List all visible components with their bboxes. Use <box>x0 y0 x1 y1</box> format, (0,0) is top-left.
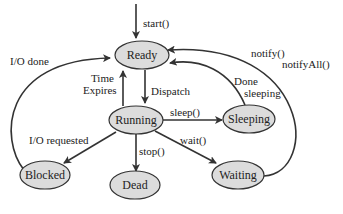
label-done: Done <box>234 75 258 87</box>
label-start: start() <box>143 17 170 30</box>
node-blocked: Blocked <box>20 161 70 189</box>
node-ready: Ready <box>115 41 169 69</box>
label-sleep: sleep() <box>170 106 200 119</box>
node-running-label: Running <box>115 113 156 127</box>
label-io-done: I/O done <box>10 55 49 67</box>
node-sleeping-label: Sleeping <box>228 112 270 126</box>
label-sleeping: sleeping <box>244 87 281 99</box>
label-wait: wait() <box>180 134 207 147</box>
label-stop: stop() <box>139 145 165 158</box>
label-time: Time <box>91 72 114 84</box>
label-notifyall: notifyAll() <box>282 58 330 71</box>
label-expires: Expires <box>83 84 117 96</box>
node-dead-label: Dead <box>122 178 147 192</box>
edge-labels: start() I/O done Time Expires Dispatch s… <box>10 17 330 158</box>
node-waiting-label: Waiting <box>219 168 257 182</box>
label-notify: notify() <box>251 47 285 60</box>
node-waiting: Waiting <box>212 161 264 189</box>
node-dead: Dead <box>110 171 160 199</box>
label-dispatch: Dispatch <box>151 85 191 97</box>
node-blocked-label: Blocked <box>25 168 65 182</box>
label-io-requested: I/O requested <box>29 134 89 146</box>
node-sleeping: Sleeping <box>223 105 275 133</box>
node-ready-label: Ready <box>127 48 158 62</box>
state-diagram: start() I/O done Time Expires Dispatch s… <box>0 0 343 214</box>
node-running: Running <box>109 106 163 134</box>
